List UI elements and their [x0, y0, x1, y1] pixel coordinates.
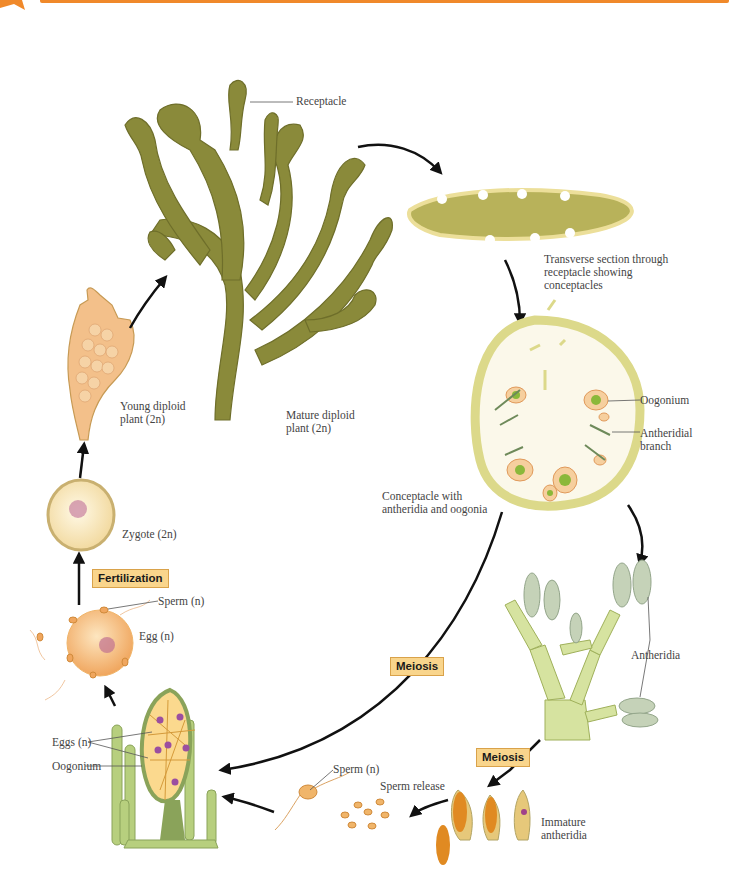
tag-meiosis-center: Meiosis [390, 657, 444, 676]
label-transverse-section: Transverse section through receptacle sh… [544, 253, 668, 292]
tag-fertilization: Fertilization [92, 569, 169, 588]
transverse-section-illustration [409, 189, 632, 245]
mature-diploid-plant-illustration [125, 80, 392, 420]
conceptacle-illustration [475, 300, 640, 506]
zygote-illustration [48, 480, 114, 550]
tag-meiosis-right: Meiosis [476, 748, 530, 767]
egg-with-sperm-illustration [30, 600, 150, 700]
label-immature-antheridia: Immature antheridia [541, 816, 587, 842]
label-oogonium-conceptacle: Oogonium [640, 394, 689, 407]
label-sperm-bottom: Sperm (n) [333, 763, 379, 776]
oogonium-with-eggs-illustration [112, 690, 218, 848]
label-antheridia: Antheridia [631, 649, 680, 662]
fucus-life-cycle-diagram: Receptacle Transverse section through re… [0, 0, 729, 880]
label-sperm-top: Sperm (n) [158, 595, 204, 608]
label-young-plant: Young diploid plant (2n) [120, 400, 186, 426]
label-conceptacle: Conceptacle with antheridia and oogonia [382, 490, 487, 516]
label-egg: Egg (n) [139, 630, 174, 643]
released-sperm-illustration [341, 799, 389, 829]
immature-antheridia-illustration [436, 790, 530, 865]
label-antheridial-branch: Antheridial branch [640, 427, 692, 453]
label-eggs: Eggs (n) [52, 736, 91, 749]
label-zygote: Zygote (2n) [122, 528, 177, 541]
label-oogonium-bottom: Oogonium [52, 760, 101, 773]
label-receptacle: Receptacle [296, 95, 346, 108]
diagram-artwork [0, 0, 729, 880]
label-mature-plant: Mature diploid plant (2n) [286, 409, 355, 435]
label-sperm-release: Sperm release [380, 780, 445, 793]
single-sperm-illustration [275, 772, 350, 830]
